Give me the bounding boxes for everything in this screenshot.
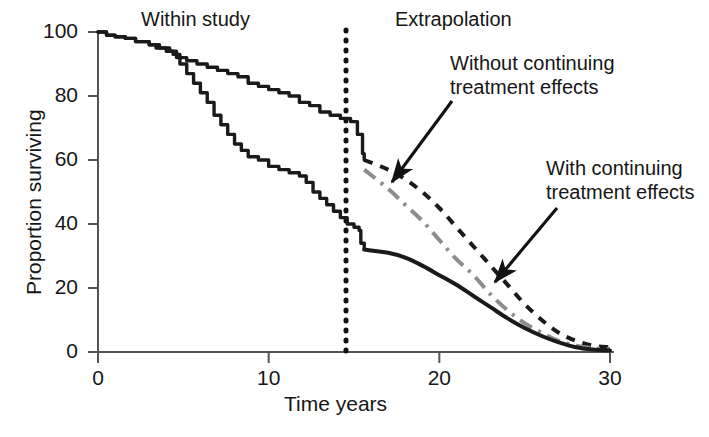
header-extrapolation: Extrapolation <box>395 8 512 31</box>
series-with-continuing-effects-extrapolation <box>364 250 610 351</box>
series-km-upper-treatment <box>98 32 364 160</box>
arrow-without-continuing-effects <box>392 101 452 182</box>
y-tick-label: 60 <box>55 147 78 171</box>
y-tick-label: 100 <box>43 19 78 43</box>
arrow-with-continuing-effects <box>495 208 557 282</box>
y-tick-label: 0 <box>66 339 78 363</box>
x-tick-label: 20 <box>428 366 451 390</box>
x-axis-title: Time years <box>284 392 387 416</box>
header-within-study: Within study <box>141 8 250 31</box>
annotation-arrows <box>392 101 557 282</box>
x-tick-label: 30 <box>598 366 621 390</box>
x-axis-ticks <box>98 352 610 363</box>
survival-extrapolation-chart: Proportion surviving Time years Within s… <box>0 0 709 437</box>
y-axis-title: Proportion surviving <box>22 109 46 295</box>
annotation-with-continuing-line1: With continuing <box>546 157 683 180</box>
x-tick-label: 0 <box>92 366 104 390</box>
y-tick-label: 20 <box>55 275 78 299</box>
x-tick-label: 10 <box>257 366 280 390</box>
series-km-lower-control <box>98 32 364 250</box>
annotation-without-continuing-line1: Without continuing <box>450 52 615 75</box>
annotation-with-continuing-line2: treatment effects <box>546 181 695 204</box>
y-tick-label: 80 <box>55 83 78 107</box>
y-axis-ticks <box>88 32 98 352</box>
annotation-without-continuing-line2: treatment effects <box>450 76 599 99</box>
y-tick-label: 40 <box>55 211 78 235</box>
